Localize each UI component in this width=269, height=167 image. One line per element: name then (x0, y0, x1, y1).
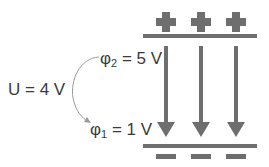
arrow-down-icon (227, 46, 245, 137)
minus-icon (226, 154, 246, 159)
capacitor-diagram: φ2 = 5 V U = 4 V φ1 = 1 V (0, 0, 269, 167)
top-potential-label: φ2 = 5 V (100, 50, 162, 69)
plus-icon (156, 12, 176, 32)
field-lines (157, 46, 245, 137)
voltage-curve-arrow (72, 57, 99, 123)
potential-value: = 1 V (107, 120, 152, 139)
potential-value: = 5 V (117, 49, 162, 68)
minus-icon (191, 154, 211, 159)
phi-symbol: φ (90, 120, 101, 139)
plus-icon (191, 12, 211, 32)
bottom-plate (143, 144, 257, 148)
bottom-potential-label: φ1 = 1 V (90, 121, 152, 140)
minus-icon (156, 154, 176, 159)
negative-charges (156, 154, 246, 159)
plus-icon (226, 12, 246, 32)
arrow-down-icon (192, 46, 210, 137)
positive-charges (156, 12, 246, 32)
top-plate (143, 34, 257, 38)
phi-symbol: φ (100, 49, 111, 68)
voltage-label: U = 4 V (8, 81, 65, 98)
